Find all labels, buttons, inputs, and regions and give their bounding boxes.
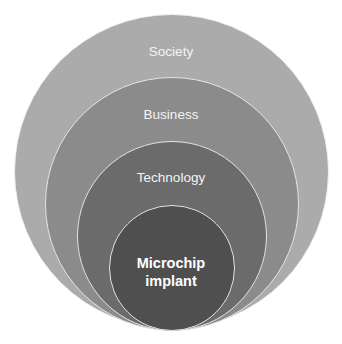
label-technology: Technology [0, 170, 342, 186]
nested-circle-diagram: Society Business Technology Microchip im… [0, 0, 342, 344]
label-society: Society [0, 44, 342, 60]
label-implant: implant [0, 272, 342, 290]
label-microchip: Microchip [0, 254, 342, 272]
label-business: Business [0, 107, 342, 123]
